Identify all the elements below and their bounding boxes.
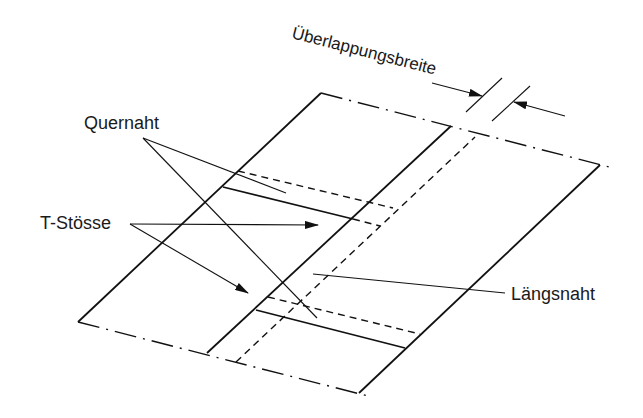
right-strip-left-edge-hidden: [236, 137, 475, 362]
t-joint-arrow-upper: [130, 224, 318, 225]
cross-seam-callout: Quernaht: [84, 113, 317, 318]
longitudinal-seam-label: Längsnaht: [511, 284, 595, 304]
upper-cross-seam-edge: [223, 187, 353, 219]
bottom-open-end: [78, 322, 368, 396]
cross-seam-label: Quernaht: [84, 113, 159, 133]
right-strip-right-edge: [359, 165, 600, 393]
right-strip: [236, 137, 600, 393]
longitudinal-seam-callout: Längsnaht: [313, 274, 595, 304]
extension-line-left: [466, 78, 502, 112]
lower-cross-seam-edge: [256, 310, 405, 348]
overlap-width-dimension: Überlappungsbreite: [290, 23, 565, 121]
t-joint-arrow-lower: [130, 224, 248, 293]
t-joints-label: T-Stösse: [40, 213, 111, 233]
seam-diagram: Überlappungsbreite Quernaht T-Stösse Län…: [0, 0, 643, 418]
top-open-end: [321, 93, 613, 168]
dimension-arrow-left: [432, 83, 482, 96]
cross-seam-leader-lower: [143, 138, 317, 318]
lower-cross-seam-hidden: [268, 297, 420, 334]
t-joints-callout: T-Stösse: [40, 213, 318, 293]
extension-line-right: [492, 86, 530, 121]
upper-cross-seam-hidden-extension: [353, 219, 380, 226]
upper-cross-seam: [223, 171, 393, 226]
overlap-width-label: Überlappungsbreite: [290, 23, 438, 78]
upper-cross-seam-hidden: [238, 171, 393, 208]
longitudinal-seam-leader: [313, 274, 505, 293]
left-strip-right-edge: [207, 126, 451, 353]
lower-cross-seam: [256, 297, 420, 348]
dimension-arrow-right: [514, 102, 565, 116]
